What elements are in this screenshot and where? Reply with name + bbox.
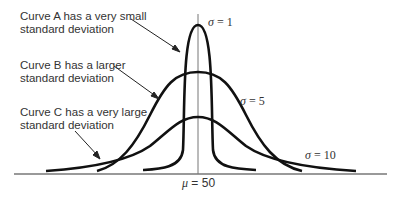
sigma-value: = 1 <box>214 15 233 29</box>
normal-curves-figure: Curve A has a very small standard deviat… <box>0 0 398 200</box>
sigma-10-label: σ = 10 <box>305 148 336 163</box>
arrow-c <box>75 131 98 156</box>
annotation-c-line1: Curve C has a very large <box>20 106 147 119</box>
sigma-value: = 5 <box>246 94 265 108</box>
sigma-value: = 10 <box>311 148 336 162</box>
annotation-c: Curve C has a very large standard deviat… <box>20 106 147 132</box>
annotation-b-line2: standard deviation <box>20 72 125 85</box>
annotation-a-line1: Curve A has a very small <box>20 10 147 23</box>
mu-value: = 50 <box>188 176 215 190</box>
annotation-c-line2: standard deviation <box>20 119 147 132</box>
arrow-a-head <box>172 45 180 52</box>
annotation-a-line2: standard deviation <box>20 23 147 36</box>
sigma-5-label: σ = 5 <box>240 94 265 109</box>
sigma-1-label: σ = 1 <box>208 15 233 30</box>
annotation-b: Curve B has a larger standard deviation <box>20 59 125 85</box>
annotation-b-line1: Curve B has a larger <box>20 59 125 72</box>
mean-label: μ = 50 <box>182 177 215 190</box>
annotation-a: Curve A has a very small standard deviat… <box>20 10 147 36</box>
